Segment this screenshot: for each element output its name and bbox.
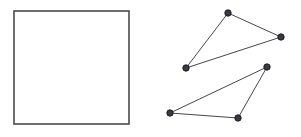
- upper-triangle-vertex-apex: [225, 10, 231, 16]
- upper-triangle-vertex-right: [278, 34, 284, 40]
- lower-triangle-vertex-apex: [264, 64, 270, 70]
- figure-root: [0, 0, 301, 137]
- lower-triangle-vertex-bottom-right: [235, 115, 241, 121]
- square-grid: [14, 11, 129, 124]
- upper-triangle-vertex-lower-left: [183, 65, 189, 71]
- lower-triangle-vertex-bottom-left: [167, 110, 173, 116]
- grid-outer-border: [14, 11, 129, 124]
- figure-canvas: [0, 0, 301, 137]
